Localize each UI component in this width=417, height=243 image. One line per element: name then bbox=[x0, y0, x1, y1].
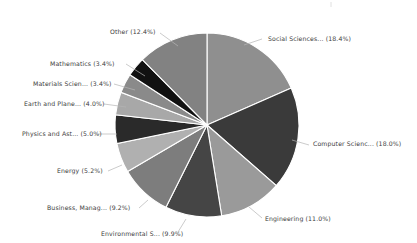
leader-line bbox=[139, 200, 148, 208]
pie-chart-canvas: Social Sciences... (18.4%)Computer Scien… bbox=[0, 0, 417, 243]
pie-chart-figure: Social Sciences... (18.4%)Computer Scien… bbox=[0, 0, 417, 243]
slice-label: Business, Manag... (9.2%) bbox=[47, 204, 130, 212]
slice-label: Engineering (11.0%) bbox=[265, 215, 331, 223]
leader-line bbox=[249, 207, 262, 218]
pie-slices-group: Social Sciences... (18.4%)Computer Scien… bbox=[115, 33, 299, 217]
slice-label: Social Sciences... (18.4%) bbox=[268, 35, 351, 42]
slice-label: Computer Scienc... (18.0%) bbox=[313, 140, 401, 148]
slice-label: Earth and Plane... (4.0%) bbox=[24, 100, 105, 107]
slice-label: Energy (5.2%) bbox=[57, 167, 103, 175]
slice-label: Physics and Ast... (5.0%) bbox=[22, 130, 102, 138]
slice-label: Environmental S... (9.9%) bbox=[101, 230, 183, 237]
slice-label: Mathematics (3.4%) bbox=[50, 60, 115, 67]
slice-label: Materials Scien... (3.4%) bbox=[33, 80, 112, 87]
leader-line bbox=[108, 165, 122, 171]
slice-label: Other (12.4%) bbox=[110, 28, 156, 35]
